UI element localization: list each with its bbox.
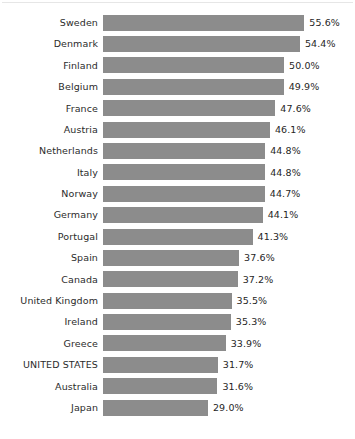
category-label: Japan [0, 403, 98, 413]
bar [103, 314, 231, 330]
bar-area: 54.4% [98, 33, 355, 54]
value-label: 31.7% [223, 354, 254, 375]
value-label: 49.9% [289, 76, 320, 97]
bar-row: Ireland35.3% [0, 311, 355, 332]
bar [103, 357, 218, 373]
bar-area: 35.3% [98, 311, 355, 332]
value-label: 44.8% [270, 162, 301, 183]
bar-track [103, 293, 232, 309]
bar-track [103, 79, 284, 95]
bar-row: Australia31.6% [0, 376, 355, 397]
bar-row: Japan29.0% [0, 397, 355, 418]
bar [103, 271, 238, 287]
bar-track [103, 357, 218, 373]
bar-row: United Kingdom35.5% [0, 290, 355, 311]
bar [103, 100, 275, 116]
bar-track [103, 207, 263, 223]
value-label: 33.9% [231, 333, 262, 354]
bar-track [103, 250, 239, 266]
bar-track [103, 164, 265, 180]
bar [103, 186, 265, 202]
value-label: 44.1% [268, 205, 299, 226]
bar-row: Netherlands44.8% [0, 140, 355, 161]
bar-chart: Sweden55.6%Denmark54.4%Finland50.0%Belgi… [0, 0, 355, 439]
bar-area: 41.3% [98, 226, 355, 247]
category-label: Portugal [0, 232, 98, 242]
bar-track [103, 314, 231, 330]
category-label: Sweden [0, 18, 98, 28]
value-label: 35.3% [236, 311, 267, 332]
bar [103, 400, 208, 416]
value-label: 46.1% [275, 119, 306, 140]
category-label: Germany [0, 210, 98, 220]
bar-area: 37.2% [98, 269, 355, 290]
bar-area: 35.5% [98, 290, 355, 311]
bar [103, 143, 265, 159]
bar-area: 31.6% [98, 376, 355, 397]
bar [103, 122, 270, 138]
bar [103, 36, 300, 52]
plot-area: Sweden55.6%Denmark54.4%Finland50.0%Belgi… [0, 12, 355, 424]
bar-area: 50.0% [98, 55, 355, 76]
bar-row: Germany44.1% [0, 205, 355, 226]
bar [103, 250, 239, 266]
category-label: Canada [0, 275, 98, 285]
bar-track [103, 100, 275, 116]
bar-area: 44.1% [98, 205, 355, 226]
bar-area: 44.7% [98, 183, 355, 204]
value-label: 47.6% [280, 98, 311, 119]
bar-area: 33.9% [98, 333, 355, 354]
value-label: 37.6% [244, 247, 275, 268]
category-label: Finland [0, 61, 98, 71]
bar [103, 164, 265, 180]
bar [103, 378, 217, 394]
bar-row: Austria46.1% [0, 119, 355, 140]
category-label: Greece [0, 339, 98, 349]
value-label: 44.8% [270, 140, 301, 161]
bar-area: 47.6% [98, 98, 355, 119]
category-label: Australia [0, 382, 98, 392]
bar-row: UNITED STATES31.7% [0, 354, 355, 375]
category-label: Denmark [0, 39, 98, 49]
bar-row: Greece33.9% [0, 333, 355, 354]
bar-track [103, 186, 265, 202]
value-label: 29.0% [213, 397, 244, 418]
bar-area: 55.6% [98, 12, 355, 33]
bar-track [103, 143, 265, 159]
category-label: United Kingdom [0, 296, 98, 306]
bar [103, 335, 226, 351]
category-label: Italy [0, 168, 98, 178]
bar-row: Spain37.6% [0, 247, 355, 268]
bar-row: Sweden55.6% [0, 12, 355, 33]
value-label: 50.0% [289, 55, 320, 76]
bar-area: 49.9% [98, 76, 355, 97]
category-label: Netherlands [0, 146, 98, 156]
value-label: 55.6% [309, 12, 340, 33]
bar-row: Norway44.7% [0, 183, 355, 204]
bar-row: Canada37.2% [0, 269, 355, 290]
bar [103, 15, 304, 31]
value-label: 37.2% [243, 269, 274, 290]
value-label: 35.5% [237, 290, 268, 311]
bar-track [103, 378, 217, 394]
value-label: 54.4% [305, 33, 336, 54]
bar-row: Denmark54.4% [0, 33, 355, 54]
category-label: Norway [0, 189, 98, 199]
bar-area: 44.8% [98, 162, 355, 183]
bar-track [103, 271, 238, 287]
bar-track [103, 335, 226, 351]
category-label: Belgium [0, 82, 98, 92]
bar-row: France47.6% [0, 98, 355, 119]
bar-track [103, 122, 270, 138]
bar-row: Italy44.8% [0, 162, 355, 183]
bar-area: 29.0% [98, 397, 355, 418]
bar-area: 44.8% [98, 140, 355, 161]
bar [103, 293, 232, 309]
top-divider [2, 2, 353, 3]
bar [103, 57, 284, 73]
bar [103, 229, 253, 245]
bar-area: 37.6% [98, 247, 355, 268]
bar-track [103, 229, 253, 245]
category-label: Austria [0, 125, 98, 135]
bar-area: 46.1% [98, 119, 355, 140]
